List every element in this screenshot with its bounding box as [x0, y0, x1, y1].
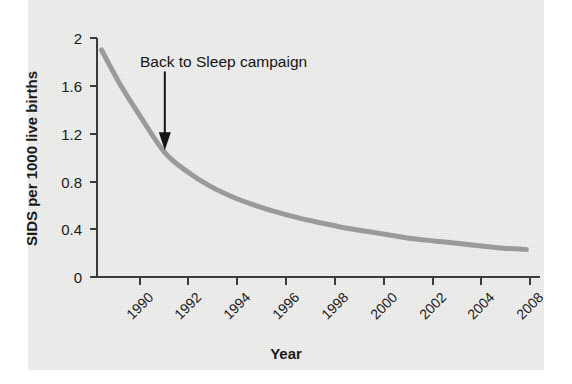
y-tick-label-0: 0	[32, 269, 82, 286]
y-tick-label-1-6: 1.6	[32, 78, 82, 95]
y-axis-ticks	[90, 38, 97, 277]
chart-figure: 2 1.6 1.2 0.8 0.4 0 1990 1992 1994 1996 …	[0, 0, 572, 384]
x-axis-ticks	[140, 277, 530, 285]
x-axis-title: Year	[0, 345, 572, 362]
y-tick-label-0-4: 0.4	[32, 221, 82, 238]
y-axis-title: SIDS per 1000 live births	[23, 44, 40, 274]
y-tick-label-0-8: 0.8	[32, 174, 82, 191]
annotation-label-back-to-sleep: Back to Sleep campaign	[140, 53, 307, 71]
y-tick-label-2: 2	[32, 30, 82, 47]
annotation-arrow-icon	[159, 71, 171, 150]
y-tick-label-1-2: 1.2	[32, 126, 82, 143]
